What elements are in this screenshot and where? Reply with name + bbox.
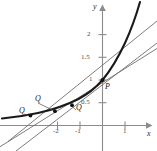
- secant-line-3: [8, 21, 157, 142]
- y-tick-label-2: 2: [87, 31, 91, 38]
- point-dot-q3: [70, 103, 74, 107]
- x-axis-label: x: [147, 130, 151, 138]
- x-tick-label-1: 1: [123, 128, 127, 135]
- y-tick-label-1: 1: [89, 76, 93, 83]
- point-label-q2: Q: [35, 95, 41, 103]
- point-dot-q1: [29, 114, 33, 118]
- y-tick-label-0-5: 0.5: [81, 99, 90, 106]
- point-dot-q2: [53, 109, 57, 113]
- x-axis-arrowhead: [146, 122, 153, 129]
- y-axis-label: y: [93, 3, 97, 11]
- point-label-q3: Q: [76, 104, 82, 112]
- leader-line-q2: [38, 103, 54, 111]
- x-tick-label--2: -2: [53, 128, 59, 135]
- figure-canvas: y x 2 1.5 1 0.5 -2 -1 1 P Q Q Q: [0, 0, 157, 151]
- point-label-q1: Q: [19, 107, 25, 115]
- point-dot-p: [101, 78, 105, 82]
- point-label-p: P: [105, 83, 110, 91]
- x-tick-label--1: -1: [75, 128, 81, 135]
- y-axis-arrowhead: [99, 5, 106, 12]
- y-tick-label-1-5: 1.5: [81, 54, 90, 61]
- exponential-curve: [2, 2, 140, 119]
